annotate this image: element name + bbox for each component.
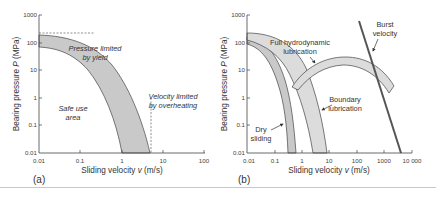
x-tick-label: 1 (300, 157, 304, 164)
burst-velocity-line (359, 21, 401, 153)
x-tick-label: 0.1 (76, 157, 85, 164)
y-tick-label: 100 (27, 39, 38, 46)
annotation-boundary: Boundary (329, 95, 361, 104)
y-tick-label: 0.1 (28, 121, 37, 128)
annotation-overheating: Velocity limited (148, 92, 198, 101)
figure: 1000 100 10 1 0.1 0.01 0.01 0.1 1 10 100… (0, 0, 436, 197)
x-tick-label: 100 (199, 157, 210, 164)
panel-label: (b) (238, 174, 250, 185)
annotation-hydrodynamic: lubrication (283, 47, 317, 56)
y-tick-label: 1000 (231, 11, 245, 18)
x-axis-label: Sliding velocity v (m/s) (288, 166, 370, 175)
annotation-dry-sliding: sliding (251, 134, 272, 143)
y-tick-label: 1000 (23, 11, 37, 18)
annotation-yield: Pressure limited (69, 44, 123, 53)
x-tick-label: 1 (120, 157, 124, 164)
panel-b: 1000 100 10 1 0.1 0.01 0.01 0.1 1 10 100… (220, 11, 422, 185)
annotation-hydrodynamic: Full hydrodynamic (270, 38, 330, 47)
arrow-icon (373, 39, 378, 51)
y-tick-label: 0.1 (236, 121, 245, 128)
x-tick-label: 0.01 (243, 157, 256, 164)
panel-a: 1000 100 10 1 0.1 0.01 0.01 0.1 1 10 100… (12, 11, 210, 185)
divider (0, 187, 436, 188)
y-axis-label: Bearing pressure P (MPa) (12, 36, 21, 131)
y-tick-label: 0.01 (25, 149, 38, 156)
y-tick-label: 1 (34, 94, 38, 101)
y-tick-label: 1 (242, 94, 246, 101)
y-tick-label: 10 (30, 66, 37, 73)
annotation-burst-velocity: Burst (376, 20, 393, 29)
y-tick-label: 100 (235, 39, 246, 46)
annotation-overheating: by overheating (149, 101, 198, 110)
y-tick-label: 10 (238, 66, 245, 73)
annotation-dry-sliding: Dry (255, 125, 267, 134)
annotation-safe-area: Safe use (58, 104, 87, 113)
x-tick-label: 0.1 (271, 157, 280, 164)
annotation-yield: by yield (82, 53, 108, 62)
x-tick-label: 0.01 (33, 157, 46, 164)
annotation-boundary: lubrication (328, 104, 362, 113)
x-tick-label: 10 (160, 157, 167, 164)
arrow-icon (271, 124, 283, 130)
panel-label: (a) (33, 174, 45, 185)
annotation-burst-velocity: velocity (373, 29, 398, 38)
y-axis-label: Bearing pressure P (MPa) (220, 36, 229, 131)
x-tick-label: 1000 (377, 157, 391, 164)
arrow-icon (310, 57, 315, 63)
x-tick-label: 10 000 (403, 157, 422, 164)
y-tick-label: 0.01 (233, 149, 246, 156)
x-axis-label: Sliding velocity v (m/s) (81, 166, 163, 175)
x-tick-label: 100 (352, 157, 363, 164)
x-tick-label: 10 (326, 157, 333, 164)
annotation-safe-area: area (66, 113, 81, 122)
